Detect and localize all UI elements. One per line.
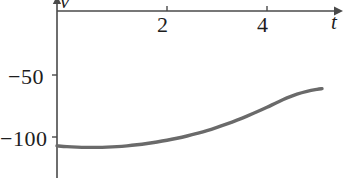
- y-tick-label-minus-100: −100: [0, 128, 47, 150]
- velocity-time-plot: 2 4 −50 −100 t v: [0, 0, 351, 178]
- x-axis-title: t: [331, 12, 337, 33]
- y-axis-title: v: [60, 0, 69, 12]
- y-tick-label-minus-50: −50: [8, 66, 44, 88]
- x-axis-group: [57, 6, 343, 15]
- plot-canvas: [0, 0, 351, 178]
- velocity-curve: [57, 89, 322, 148]
- x-tick-label-2: 2: [157, 14, 168, 36]
- x-tick-label-4: 4: [257, 14, 268, 36]
- y-axis-group: [52, 0, 61, 178]
